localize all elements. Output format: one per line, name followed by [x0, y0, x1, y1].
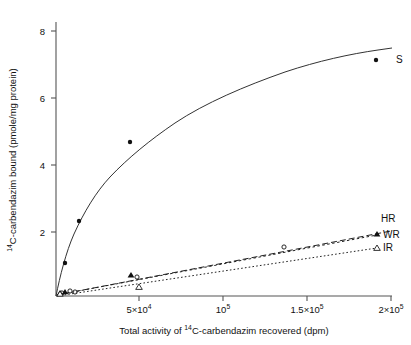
series-label-s: S	[396, 54, 403, 65]
y-tick-label-6: 6	[40, 93, 45, 104]
y-tick-label-8: 8	[40, 26, 45, 37]
binding-saturation-chart: 8 6 4 2 5×104 105 1.5×105 2×105	[0, 0, 411, 345]
series-s-curve	[56, 48, 392, 296]
series-s-point	[63, 261, 67, 265]
x-axis-title: Total activity of 14C-carbendazim recove…	[119, 324, 328, 336]
series-label-wr: WR	[383, 229, 400, 240]
chart-figure: 8 6 4 2 5×104 105 1.5×105 2×105	[0, 0, 411, 345]
series-s: S	[56, 48, 403, 296]
series-ir-point	[136, 284, 143, 289]
series-wr-point	[374, 231, 381, 237]
axes-group	[56, 22, 392, 296]
x-tick-label-200000: 2×105	[378, 303, 403, 315]
series-label-hr: HR	[381, 213, 395, 224]
series-hr-point	[135, 275, 139, 279]
y-axis-title: 14C-carbendazim bound (pmole/mg protein)	[6, 68, 18, 251]
series-wr-point	[128, 272, 135, 278]
y-tick-label-4: 4	[40, 160, 45, 171]
series-s-point	[128, 140, 132, 144]
x-tick-label-100000: 105	[216, 303, 231, 315]
series-hr: HR	[57, 213, 395, 295]
series-ir-line	[57, 248, 377, 296]
series-ir: IR	[57, 242, 393, 296]
series-hr-point	[282, 245, 286, 249]
series-s-point	[374, 58, 378, 62]
x-tick-label-150000: 1.5×105	[290, 303, 323, 315]
y-axis-ticks: 8 6 4 2	[40, 26, 56, 238]
y-tick-label-2: 2	[40, 227, 45, 238]
x-axis-ticks: 5×104 105 1.5×105 2×105	[126, 296, 403, 315]
x-tick-label-50000: 5×104	[126, 303, 151, 315]
series-s-point	[77, 219, 81, 223]
series-ir-point	[374, 245, 381, 250]
series-label-ir: IR	[383, 242, 393, 253]
